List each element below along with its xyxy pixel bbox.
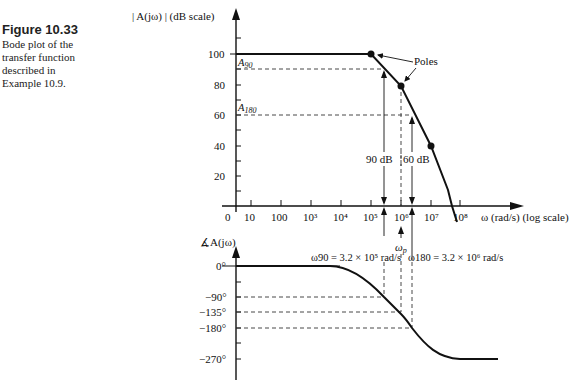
magnitude-curve xyxy=(236,54,457,222)
x-tick-0: 0 xyxy=(225,211,231,223)
phase-tick-135: −135° xyxy=(199,306,226,318)
a90-label: A90 xyxy=(237,57,252,70)
y-axis-arrow-icon xyxy=(232,8,240,20)
db90-label: 90 dB xyxy=(366,153,393,165)
x-tick-100: 100 xyxy=(271,211,288,223)
y-tick-20: 20 xyxy=(214,170,226,182)
phase-tick-180: −180° xyxy=(199,322,226,334)
phase-y-ticks xyxy=(236,282,241,359)
y-tick-40: 40 xyxy=(214,140,226,152)
bode-plot: | A(jω) | (dB scale) 100 80 60 40 20 xyxy=(0,0,583,388)
x-tick-1e3: 10³ xyxy=(303,211,318,223)
phase-y-label: ∡A(jω) xyxy=(200,236,236,249)
magnitude-plot: | A(jω) | (dB scale) 100 80 60 40 20 xyxy=(132,8,569,260)
x-tick-10: 10 xyxy=(244,211,256,223)
phase-tick-0: 0° xyxy=(216,260,226,272)
phase-tick-90: −90° xyxy=(205,291,227,303)
x-tick-1e4: 10⁴ xyxy=(333,211,348,223)
pole-marker xyxy=(428,143,435,150)
x-tick-1e6: 10⁶ xyxy=(394,211,409,223)
omega90-label: ω90 = 3.2 × 10⁵ rad/s xyxy=(311,252,401,263)
x-tick-1e7: 10⁷ xyxy=(424,211,439,223)
a180-label: A180 xyxy=(237,102,256,115)
magnitude-guides xyxy=(237,69,412,206)
y-tick-100: 100 xyxy=(208,48,225,60)
pole-marker xyxy=(368,51,375,58)
x-tick-1e5: 10⁵ xyxy=(363,211,378,223)
phase-curve xyxy=(236,266,498,359)
phase-tick-270: −270° xyxy=(199,353,226,365)
y-tick-80: 80 xyxy=(214,79,226,91)
magnitude-y-label: | A(jω) | (dB scale) xyxy=(132,10,215,23)
y-tick-60: 60 xyxy=(214,109,226,121)
db60-label: 60 dB xyxy=(403,153,430,165)
magnitude-x-label: ω (rad/s) (log scale) xyxy=(481,211,569,224)
magnitude-x-ticks xyxy=(251,200,460,206)
omega180-label: ω180 = 3.2 × 10⁶ rad/s xyxy=(408,252,503,263)
x-axis-arrow-icon xyxy=(510,202,524,210)
poles-label: Poles xyxy=(414,55,438,67)
phase-plot: ∡A(jω) 0° −90° −135° −180° −270° ωp ω90 … xyxy=(199,226,503,380)
pole-marker xyxy=(398,83,405,90)
